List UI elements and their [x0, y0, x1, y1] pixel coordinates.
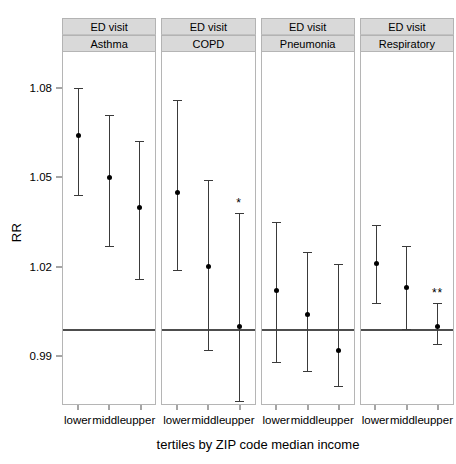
- facet-panel-pneumonia: ED visitPneumonialowermiddleupper: [261, 18, 355, 464]
- y-axis-tick-label: 0.99: [30, 350, 52, 362]
- y-axis-title: RR: [2, 0, 32, 464]
- x-axis-tick-mark: [375, 405, 376, 410]
- point-estimate-marker: [336, 348, 341, 353]
- reference-line: [63, 329, 155, 330]
- plot-area: **: [360, 51, 454, 405]
- lower-ci-cap: [272, 362, 281, 363]
- upper-ci-cap: [272, 222, 281, 223]
- lower-ci-cap: [74, 195, 83, 196]
- x-axis: lowermiddleupper: [360, 405, 454, 439]
- lower-ci-cap: [334, 386, 343, 387]
- panel-row: ED visitAsthmalowermiddleupperED visitCO…: [62, 18, 454, 464]
- x-axis-tick-label-lower: lower: [262, 414, 289, 426]
- lower-ci-cap: [204, 350, 213, 351]
- panel-strip-outcome-type: ED visit: [360, 18, 454, 35]
- y-axis-title-label: RR: [9, 222, 24, 241]
- panel-strip-condition: COPD: [161, 35, 255, 51]
- facet-panel-copd: ED visitCOPD*lowermiddleupper: [161, 18, 255, 464]
- facet-panel-asthma: ED visitAsthmalowermiddleupper: [62, 18, 156, 464]
- panel-strip-outcome-type: ED visit: [261, 18, 355, 35]
- point-estimate-marker: [76, 133, 81, 138]
- upper-ci-cap: [303, 252, 312, 253]
- confidence-interval-line: [338, 264, 339, 386]
- point-estimate-marker: [175, 190, 180, 195]
- lower-ci-cap: [433, 344, 442, 345]
- point-estimate-marker: [374, 261, 379, 266]
- lower-ci-cap: [235, 401, 244, 402]
- upper-ci-cap: [402, 246, 411, 247]
- lower-ci-cap: [173, 270, 182, 271]
- panel-strip-outcome-type: ED visit: [161, 18, 255, 35]
- x-axis-tick-label-upper: upper: [225, 414, 254, 426]
- x-axis: lowermiddleupper: [62, 405, 156, 439]
- x-axis-tick-label-upper: upper: [126, 414, 155, 426]
- x-axis-tick-label-lower: lower: [64, 414, 91, 426]
- x-axis-title: tertiles by ZIP code median income: [62, 437, 454, 452]
- x-axis-tick-mark: [307, 405, 308, 410]
- significance-marker: **: [432, 287, 443, 299]
- y-axis-tick-label: 1.05: [30, 171, 52, 183]
- lower-ci-cap: [303, 371, 312, 372]
- upper-ci-cap: [204, 180, 213, 181]
- x-axis: lowermiddleupper: [261, 405, 355, 439]
- x-axis-tick-label-middle: middle: [191, 414, 225, 426]
- y-axis-tick-label: 1.08: [30, 82, 52, 94]
- x-axis-tick-label-upper: upper: [424, 414, 453, 426]
- x-axis-tick-mark: [77, 405, 78, 410]
- lower-ci-cap: [402, 329, 411, 330]
- upper-ci-cap: [235, 213, 244, 214]
- panel-strip-condition: Respiratory: [360, 35, 454, 51]
- y-axis: 1.081.051.020.99: [0, 0, 62, 464]
- x-axis-tick-mark: [438, 405, 439, 410]
- point-estimate-marker: [274, 288, 279, 293]
- upper-ci-cap: [105, 115, 114, 116]
- upper-ci-cap: [372, 225, 381, 226]
- point-estimate-marker: [435, 324, 440, 329]
- confidence-interval-line: [177, 100, 178, 270]
- upper-ci-cap: [334, 264, 343, 265]
- point-estimate-marker: [206, 264, 211, 269]
- point-estimate-marker: [137, 205, 142, 210]
- x-axis: lowermiddleupper: [161, 405, 255, 439]
- plot-area: [62, 51, 156, 405]
- lower-ci-cap: [105, 246, 114, 247]
- x-axis-tick-mark: [176, 405, 177, 410]
- confidence-interval-line: [78, 88, 79, 195]
- x-axis-tick-label-lower: lower: [163, 414, 190, 426]
- upper-ci-cap: [74, 88, 83, 89]
- x-axis-tick-label-middle: middle: [92, 414, 126, 426]
- facet-panel-respiratory: ED visitRespiratory**lowermiddleupper: [360, 18, 454, 464]
- x-axis-tick-mark: [406, 405, 407, 410]
- point-estimate-marker: [107, 175, 112, 180]
- upper-ci-cap: [433, 303, 442, 304]
- plot-area: *: [161, 51, 255, 405]
- x-axis-tick-mark: [276, 405, 277, 410]
- x-axis-tick-label-upper: upper: [324, 414, 353, 426]
- lower-ci-cap: [135, 279, 144, 280]
- upper-ci-cap: [135, 141, 144, 142]
- confidence-interval-line: [239, 213, 240, 401]
- point-estimate-marker: [237, 324, 242, 329]
- point-estimate-marker: [305, 312, 310, 317]
- x-axis-tick-label-middle: middle: [390, 414, 424, 426]
- significance-marker: *: [236, 197, 242, 209]
- point-estimate-marker: [404, 285, 409, 290]
- x-axis-tick-mark: [239, 405, 240, 410]
- x-axis-tick-label-middle: middle: [291, 414, 325, 426]
- panel-strip-outcome-type: ED visit: [62, 18, 156, 35]
- confidence-interval-line: [109, 115, 110, 246]
- panel-strip-condition: Asthma: [62, 35, 156, 51]
- x-axis-tick-mark: [140, 405, 141, 410]
- x-axis-tick-mark: [109, 405, 110, 410]
- x-axis-tick-mark: [208, 405, 209, 410]
- panel-strip-condition: Pneumonia: [261, 35, 355, 51]
- x-axis-tick-mark: [339, 405, 340, 410]
- x-axis-tick-label-lower: lower: [362, 414, 389, 426]
- y-axis-tick-label: 1.02: [30, 261, 52, 273]
- upper-ci-cap: [173, 100, 182, 101]
- lower-ci-cap: [372, 303, 381, 304]
- plot-area: [261, 51, 355, 405]
- confidence-interval-line: [139, 141, 140, 278]
- forest-plot-figure: RR 1.081.051.020.99 ED visitAsthmalowerm…: [0, 0, 456, 464]
